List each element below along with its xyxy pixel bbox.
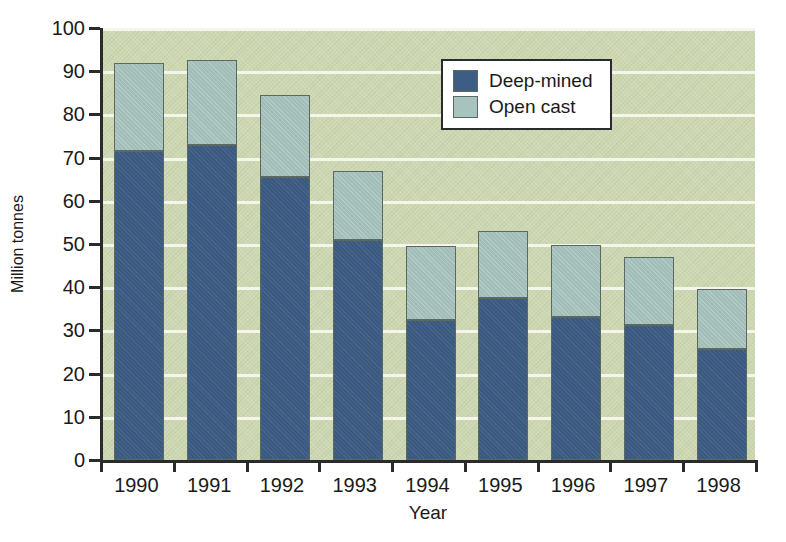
y-tick-label: 90: [63, 60, 85, 83]
legend-label-open-cast: Open cast: [489, 96, 576, 118]
x-axis-label: Year: [409, 502, 447, 524]
x-tick-label: 1992: [260, 474, 305, 497]
bar-group[interactable]: [333, 28, 383, 460]
y-tick-mark: [89, 27, 100, 30]
x-tick-mark: [464, 460, 467, 472]
legend-swatch-open-cast: [453, 96, 478, 118]
y-tick-mark: [89, 416, 100, 419]
bar-segment-open-cast[interactable]: [406, 246, 456, 319]
y-tick-label: 20: [63, 362, 85, 385]
x-tick-label: 1993: [332, 474, 377, 497]
x-tick-label: 1995: [478, 474, 523, 497]
x-axis-line: [100, 460, 757, 463]
x-tick-mark: [682, 460, 685, 472]
y-tick-mark: [89, 373, 100, 376]
bar-segment-deep-mined[interactable]: [406, 320, 456, 460]
legend: Deep-mined Open cast: [441, 59, 612, 130]
x-tick-label: 1998: [696, 474, 741, 497]
y-tick-label: 40: [63, 276, 85, 299]
y-tick-mark: [89, 243, 100, 246]
y-tick-label: 100: [52, 17, 85, 40]
legend-item-deep-mined: Deep-mined: [453, 68, 600, 94]
y-tick-label: 70: [63, 146, 85, 169]
bar-segment-open-cast[interactable]: [114, 63, 164, 152]
bar-segment-open-cast[interactable]: [624, 257, 674, 325]
plot-area: [100, 28, 755, 460]
y-tick-mark: [89, 70, 100, 73]
bar-segment-deep-mined[interactable]: [624, 325, 674, 460]
y-tick-mark: [89, 200, 100, 203]
y-tick-mark: [89, 329, 100, 332]
bar-segment-deep-mined[interactable]: [333, 240, 383, 460]
bar-group[interactable]: [187, 28, 237, 460]
y-tick-label: 30: [63, 319, 85, 342]
bar-segment-open-cast[interactable]: [333, 171, 383, 240]
bar-segment-deep-mined[interactable]: [697, 349, 747, 460]
bar-segment-open-cast[interactable]: [187, 60, 237, 144]
bar-group[interactable]: [114, 28, 164, 460]
bar-group[interactable]: [624, 28, 674, 460]
x-tick-label: 1991: [187, 474, 232, 497]
x-tick-label: 1996: [551, 474, 596, 497]
y-tick-label: 0: [74, 449, 85, 472]
legend-item-open-cast: Open cast: [453, 94, 600, 120]
x-tick-label: 1990: [114, 474, 159, 497]
bar-group[interactable]: [260, 28, 310, 460]
bar-segment-open-cast[interactable]: [260, 95, 310, 177]
x-tick-mark: [537, 460, 540, 472]
y-tick-mark: [89, 286, 100, 289]
legend-swatch-deep-mined: [453, 70, 478, 92]
bar-segment-open-cast[interactable]: [478, 231, 528, 298]
x-tick-mark: [173, 460, 176, 472]
x-tick-mark: [100, 460, 103, 472]
y-tick-mark: [89, 459, 100, 462]
chart-figure: 0102030405060708090100 19901991199219931…: [0, 0, 786, 542]
x-tick-mark: [755, 460, 758, 472]
x-tick-mark: [609, 460, 612, 472]
x-tick-label: 1997: [624, 474, 669, 497]
bar-segment-deep-mined[interactable]: [260, 177, 310, 460]
bar-group[interactable]: [697, 28, 747, 460]
x-tick-mark: [318, 460, 321, 472]
bar-segment-deep-mined[interactable]: [478, 298, 528, 460]
y-tick-mark: [89, 157, 100, 160]
bar-segment-open-cast[interactable]: [697, 289, 747, 348]
y-tick-label: 80: [63, 103, 85, 126]
x-tick-mark: [246, 460, 249, 472]
x-tick-mark: [391, 460, 394, 472]
bar-segment-deep-mined[interactable]: [551, 317, 601, 460]
legend-label-deep-mined: Deep-mined: [489, 70, 593, 92]
x-tick-label: 1994: [405, 474, 450, 497]
y-tick-label: 10: [63, 405, 85, 428]
bar-segment-deep-mined[interactable]: [114, 151, 164, 460]
bar-segment-open-cast[interactable]: [551, 245, 601, 318]
y-tick-label: 60: [63, 189, 85, 212]
y-tick-mark: [89, 113, 100, 116]
bar-segment-deep-mined[interactable]: [187, 145, 237, 460]
y-axis-label: Million tonnes: [9, 195, 27, 293]
y-tick-label: 50: [63, 233, 85, 256]
